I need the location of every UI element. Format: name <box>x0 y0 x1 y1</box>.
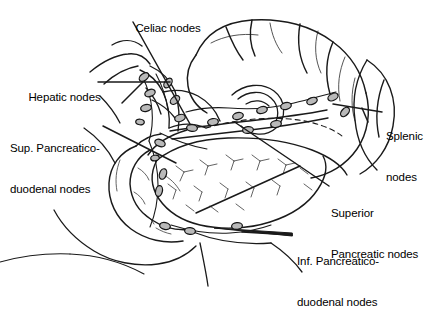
label-line-2: duodenal nodes <box>297 296 379 310</box>
label-line-1: Sup. Pancreatico- <box>10 142 100 156</box>
label-line-1: Splenic <box>386 130 423 144</box>
label-line-1: Superior <box>331 207 418 221</box>
label-line-2: duodenal nodes <box>10 183 100 197</box>
label-celiac-nodes: Celiac nodes <box>123 8 201 49</box>
label-inf-pancreaticoduodenal-nodes: Inf. Pancreatico- duodenal nodes <box>297 228 379 310</box>
label-sup-pancreaticoduodenal-nodes: Sup. Pancreatico- duodenal nodes <box>10 115 100 223</box>
label-line-1: Inf. Pancreatico- <box>297 255 379 269</box>
label-hepatic-nodes: Hepatic nodes <box>16 77 101 118</box>
